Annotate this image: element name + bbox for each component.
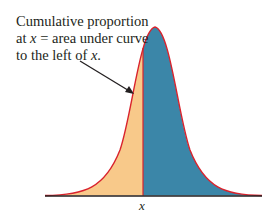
x-axis-label: x xyxy=(139,198,145,214)
annotation-line-3-post: . xyxy=(97,47,101,63)
arrow-head-icon xyxy=(125,86,134,94)
annotation-line-3-pre: to the left of xyxy=(16,47,91,63)
annotation-line-2-post: = area under curve xyxy=(37,30,149,46)
arrow-shaft xyxy=(80,61,131,92)
annotation-text: Cumulative proportion at x = area under … xyxy=(16,13,149,64)
annotation-line-1: Cumulative proportion xyxy=(16,13,149,29)
annotation-line-2-pre: at xyxy=(16,30,30,46)
